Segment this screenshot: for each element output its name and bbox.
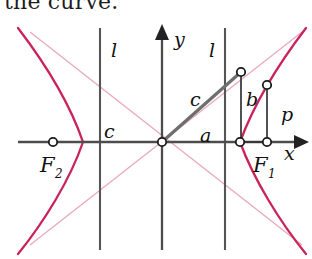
x-axis-arrowhead	[294, 135, 309, 149]
segment-label-c-focal: c	[104, 120, 115, 142]
point-curve-p	[263, 81, 271, 89]
figure-root: the curve.	[0, 0, 312, 259]
focus-left-label-subscript: 2	[54, 167, 63, 181]
point-vertex-right	[236, 138, 244, 146]
segment-label-p: p	[281, 103, 293, 125]
point-focus-right	[263, 138, 271, 146]
point-triangle-apex	[237, 68, 245, 76]
focus-right-label-group: F 1	[252, 153, 276, 181]
point-origin	[158, 138, 166, 146]
x-axis-label: x	[284, 142, 295, 164]
focus-left-label: F	[39, 153, 56, 177]
hyperbola-diagram: y x l l F 2 F 1 c a b p c	[0, 0, 312, 259]
focus-left-label-group: F 2	[39, 153, 63, 181]
segment-label-b: b	[246, 88, 258, 110]
y-axis-arrowhead	[155, 24, 169, 40]
directrix-right-label: l	[209, 39, 215, 61]
y-axis-label: y	[173, 28, 185, 50]
segment-label-c-hypotenuse: c	[190, 88, 201, 110]
directrix-left-label: l	[111, 39, 117, 61]
segment-label-a: a	[200, 124, 211, 146]
focus-right-label: F	[252, 153, 269, 177]
point-focus-left	[49, 138, 57, 146]
focus-right-label-subscript: 1	[268, 167, 276, 181]
